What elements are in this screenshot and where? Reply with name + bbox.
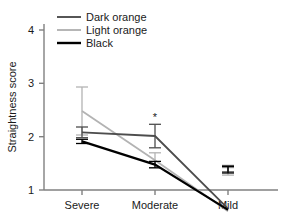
legend-label-light-orange: Light orange <box>86 24 147 36</box>
x-label-severe: Severe <box>65 199 100 211</box>
y-tick-label-4: 4 <box>28 24 34 36</box>
y-axis <box>39 24 44 190</box>
y-tick-label-1: 1 <box>28 184 34 196</box>
legend-label-black: Black <box>86 37 113 49</box>
legend-item-black[interactable]: Black <box>57 37 113 49</box>
significance-star-moderate: * <box>153 111 158 123</box>
y-tick-label-2: 2 <box>28 131 34 143</box>
legend-label-dark-orange: Dark orange <box>86 11 147 23</box>
straightness-score-line-chart: 4 3 2 1 Straightness score Severe Modera… <box>0 0 286 222</box>
x-axis <box>44 190 278 195</box>
y-axis-title: Straightness score <box>6 61 18 152</box>
chart-legend: Dark orange Light orange Black <box>57 11 147 49</box>
y-tick-label-3: 3 <box>28 77 34 89</box>
legend-item-light-orange[interactable]: Light orange <box>57 24 147 36</box>
x-label-moderate: Moderate <box>132 199 178 211</box>
chart-figure: 4 3 2 1 Straightness score Severe Modera… <box>0 0 286 222</box>
legend-item-dark-orange[interactable]: Dark orange <box>57 11 147 23</box>
